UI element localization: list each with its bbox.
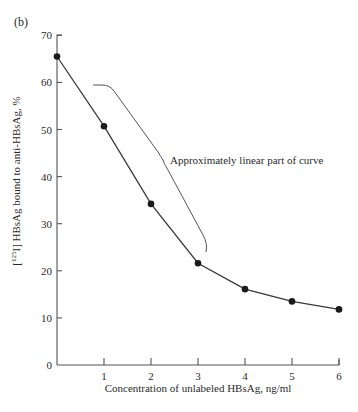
- data-point: [148, 201, 155, 208]
- x-tick-label: 5: [289, 370, 295, 382]
- data-point: [242, 286, 249, 293]
- y-tick-label: 40: [41, 171, 53, 183]
- data-line: [57, 56, 339, 309]
- annotation-brace: [93, 85, 207, 252]
- y-tick-label: 30: [41, 218, 53, 230]
- y-axis: 010203040506070: [41, 29, 62, 371]
- x-tick-label: 6: [336, 370, 342, 382]
- y-tick-label: 0: [47, 359, 53, 371]
- panel-label: (b): [14, 15, 28, 29]
- data-point: [54, 53, 61, 60]
- y-tick-label: 20: [41, 265, 53, 277]
- data-point: [101, 123, 108, 130]
- y-tick-label: 50: [41, 124, 53, 136]
- y-tick-label: 60: [41, 76, 53, 88]
- x-tick-label: 2: [148, 370, 154, 382]
- data-point: [195, 260, 202, 267]
- x-tick-label: 3: [195, 370, 201, 382]
- x-tick-label: 4: [242, 370, 248, 382]
- x-axis: 123456: [57, 358, 342, 382]
- x-axis-title: Concentration of unlabeled HBsAg, ng/ml: [105, 382, 292, 394]
- chart: (b) 010203040506070 123456 [125I] HBsAg …: [0, 0, 358, 412]
- annotation-label: Approximately linear part of curve: [170, 154, 323, 166]
- y-tick-label: 70: [41, 29, 53, 41]
- data-point: [336, 306, 343, 313]
- data-points: [54, 53, 343, 313]
- y-axis-title: [125I] HBsAg bound to anti-HBsAg, %: [10, 96, 22, 265]
- x-tick-label: 1: [101, 370, 107, 382]
- data-point: [289, 298, 296, 305]
- y-tick-label: 10: [41, 312, 53, 324]
